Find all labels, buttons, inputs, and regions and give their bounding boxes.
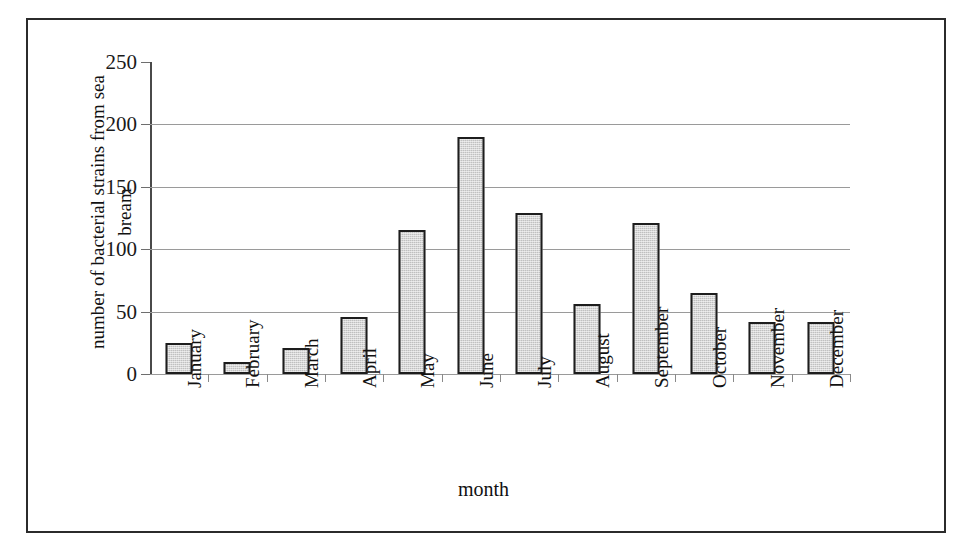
y-tick-label: 200: [106, 112, 138, 137]
y-tick-label: 50: [116, 299, 137, 324]
x-tick-label: January: [150, 388, 208, 406]
y-tick-mark: [141, 62, 150, 63]
x-tick-mark: [792, 374, 793, 382]
bar-slot: [500, 62, 558, 374]
bar[interactable]: [457, 137, 484, 374]
y-tick-mark: [141, 374, 150, 375]
x-tick-label: June: [442, 388, 500, 406]
bar[interactable]: [516, 213, 543, 374]
x-tick-label: December: [792, 388, 850, 406]
bar-slot: [442, 62, 500, 374]
x-tick-mark: [675, 374, 676, 382]
x-tick-label-text: June: [478, 353, 496, 388]
x-tick-label: August: [558, 388, 616, 406]
y-tick-label: 100: [106, 237, 138, 262]
x-tick-mark: [208, 374, 209, 382]
bar-slot: [383, 62, 441, 374]
y-tick-mark: [141, 187, 150, 188]
x-tick-mark: [325, 374, 326, 382]
x-tick-mark: [267, 374, 268, 382]
x-tick-label-text: March: [303, 338, 321, 388]
x-tick-label: July: [500, 388, 558, 406]
bar-slot: [150, 62, 208, 374]
x-tick-label-text: August: [594, 333, 612, 388]
x-tick-label: October: [675, 388, 733, 406]
x-tick-label-text: February: [244, 319, 262, 388]
x-tick-label: September: [617, 388, 675, 406]
x-tick-label-text: April: [361, 348, 379, 388]
y-tick-label: 250: [106, 50, 138, 75]
x-tick-label-text: November: [769, 308, 787, 388]
figure: number of bacterial strains from sea bre…: [0, 0, 967, 550]
x-axis-title: month: [0, 478, 967, 501]
y-tick-mark: [141, 124, 150, 125]
x-tick-label: May: [383, 388, 441, 406]
x-tick-mark: [442, 374, 443, 382]
y-tick-label: 150: [106, 174, 138, 199]
y-tick-mark: [141, 312, 150, 313]
x-tick-label-text: December: [828, 310, 846, 388]
x-tick-mark: [558, 374, 559, 382]
x-tick-label-text: September: [653, 307, 671, 388]
bar-slot: [267, 62, 325, 374]
x-tick-label: February: [208, 388, 266, 406]
bar-slot: [325, 62, 383, 374]
x-tick-label-text: May: [419, 353, 437, 388]
x-tick-label-text: July: [536, 356, 554, 388]
x-tick-label-text: October: [711, 327, 729, 388]
y-tick-label: 0: [127, 362, 138, 387]
y-axis-title: number of bacterial strains from sea bre…: [81, 22, 141, 402]
bar-slot: [558, 62, 616, 374]
x-tick-label: November: [733, 388, 791, 406]
x-tick-mark: [617, 374, 618, 382]
x-tick-mark: [500, 374, 501, 382]
y-tick-mark: [141, 249, 150, 250]
x-tick-label-text: January: [186, 329, 204, 388]
x-tick-mark: [733, 374, 734, 382]
x-tick-mark: [383, 374, 384, 382]
x-tick-mark: [850, 374, 851, 382]
x-tick-label: April: [325, 388, 383, 406]
x-tick-label: March: [267, 388, 325, 406]
